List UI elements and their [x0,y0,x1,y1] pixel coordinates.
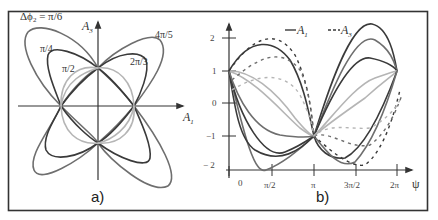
x-tick-2pi: 2π [390,180,400,190]
a1-curve-3 [229,58,397,153]
x-tick-0: 0 [238,178,243,188]
a-y-axis-label: A3 [81,19,93,35]
label-pi6: Δϕ2 = π/6 [20,10,63,24]
a1-curve-6 [229,71,397,158]
a3-curve-1 [229,39,400,166]
label-2pi3: 2π/3 [130,56,148,67]
panel-b-label: b) [316,188,329,205]
y-tick-m1: −1 [206,131,216,141]
a-x-axis-label: A1 [182,110,194,126]
label-pi2: π/2 [62,63,75,74]
x-tick-3pi2: 3π/2 [344,180,360,190]
legend-a3: A3 [340,23,352,39]
legend: A1 A3 [285,23,352,39]
label-4pi5: 4π/5 [155,29,173,40]
y-tick-m2: − 2 [203,160,215,170]
x-tick-pi2: π/2 [264,180,276,190]
y-tick-2: 2 [210,33,215,43]
label-pi4: π/4 [40,43,53,54]
panel-a-label: a) [91,188,104,205]
y-tick-1: 1 [212,66,217,76]
y-tick-0: 0 [212,98,217,108]
panel-b: 2 1 0 −1 − 2 0 π/2 π 3π/2 2π ψ [203,23,420,205]
panel-a: Δϕ2 = π/6 π/4 π/2 2π/3 4π/5 A3 A1 a) [18,10,194,205]
b-x-axis-label: ψ [412,177,420,191]
figure: Δϕ2 = π/6 π/4 π/2 2π/3 4π/5 A3 A1 a) [0,0,438,220]
legend-a1: A1 [296,23,308,39]
